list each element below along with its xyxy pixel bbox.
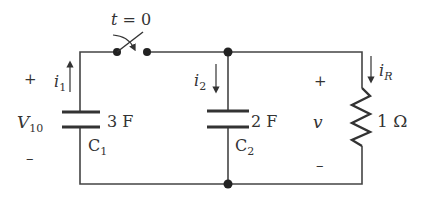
circuit-diagram: t = 0 3 F C1 + V10 – i1 2 F C2 i2 + v – … — [0, 0, 433, 208]
c1-name: C1 — [88, 136, 107, 158]
switch-contact-right — [143, 48, 151, 56]
switch: t = 0 — [111, 10, 151, 56]
v-minus: – — [316, 156, 324, 174]
c1-value: 3 F — [107, 112, 133, 131]
capacitor-c1: 3 F C1 — [62, 112, 133, 158]
node-bottom — [224, 180, 233, 189]
c2-name: C2 — [235, 136, 254, 158]
wire-top — [147, 52, 362, 88]
v10-minus: – — [26, 149, 34, 167]
v-plus: + — [314, 72, 327, 90]
v-label: v — [313, 112, 323, 132]
capacitor-c2: 2 F C2 — [207, 111, 277, 158]
wire-left-top — [80, 52, 117, 112]
ir-label: iR — [379, 61, 392, 83]
resistor-value: 1 Ω — [377, 111, 407, 131]
switch-label: t = 0 — [111, 10, 151, 29]
v10-label: V10 — [17, 112, 43, 135]
resistor-zigzag — [352, 88, 370, 146]
c2-value: 2 F — [251, 112, 277, 131]
i1-label: i1 — [54, 72, 66, 94]
v10-plus: + — [24, 70, 37, 88]
resistor: 1 Ω — [352, 88, 407, 146]
node-top — [224, 48, 233, 57]
i2-label: i2 — [194, 71, 206, 93]
